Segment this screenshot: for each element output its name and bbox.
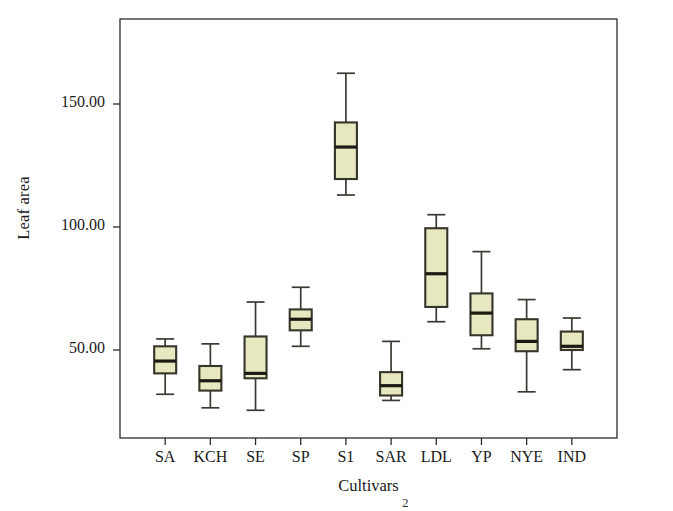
- box-iqr: [425, 228, 447, 307]
- box-plot-ldl: [425, 215, 447, 322]
- box-iqr: [335, 122, 357, 179]
- box-plot-sar: [380, 341, 402, 400]
- x-axis-title: Cultivars: [289, 476, 449, 496]
- box-iqr: [380, 372, 402, 395]
- box-plot-yp: [470, 252, 492, 349]
- box-iqr: [199, 366, 221, 391]
- x-axis-tick-label-ind: IND: [542, 448, 602, 466]
- y-axis-title: Leaf area: [14, 168, 34, 248]
- box-plot-s1: [335, 73, 357, 195]
- plot-frame: [120, 19, 617, 438]
- box-plot-sa: [154, 339, 176, 394]
- y-axis-tick-label: 150.00: [15, 93, 105, 111]
- figure-container: Leaf area Cultivars 50.00100.00150.00 SA…: [0, 0, 673, 511]
- boxplot-svg: [0, 0, 673, 511]
- box-plot-nye: [516, 300, 538, 392]
- y-axis-tick-label: 50.00: [15, 339, 105, 357]
- box-plot-kch: [199, 344, 221, 408]
- box-iqr: [516, 319, 538, 351]
- figure-footnote-marker: 2: [402, 495, 409, 511]
- box-plot-sp: [290, 287, 312, 346]
- box-plot-ind: [561, 318, 583, 370]
- box-plot-se: [245, 302, 267, 410]
- y-axis-tick-label: 100.00: [15, 216, 105, 234]
